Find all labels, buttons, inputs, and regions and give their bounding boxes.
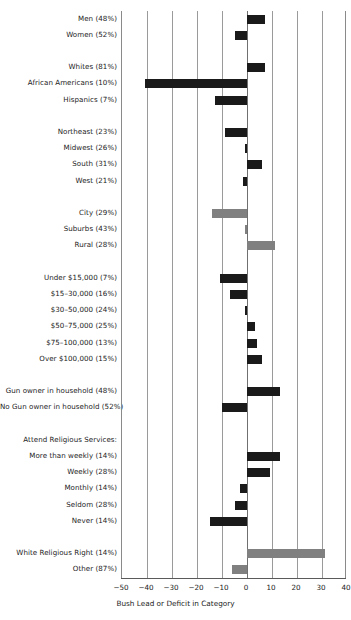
bar	[247, 160, 262, 169]
category-label: More than weekly (14%)	[0, 452, 117, 460]
plot-area	[121, 11, 346, 578]
bush-lead-deficit-chart: Men (48%)Women (52%)Whites (81%)African …	[0, 0, 351, 620]
bar	[240, 484, 248, 493]
bar	[247, 322, 255, 331]
category-label: $30–50,000 (24%)	[0, 306, 117, 314]
x-axis-title: Bush Lead or Deficit in Category	[0, 599, 351, 608]
bar	[212, 209, 247, 218]
bar	[247, 452, 280, 461]
category-label: City (29%)	[0, 209, 117, 217]
category-label: Hispanics (7%)	[0, 96, 117, 104]
bar	[247, 355, 262, 364]
bar	[245, 225, 248, 234]
bar	[247, 468, 270, 477]
gridline--40	[147, 11, 148, 578]
category-label: Women (52%)	[0, 31, 117, 39]
category-label: Weekly (28%)	[0, 468, 117, 476]
bar	[230, 290, 248, 299]
category-label: Rural (28%)	[0, 241, 117, 249]
category-label: No Gun owner in household (52%)	[0, 403, 117, 411]
bar	[243, 177, 247, 186]
group-heading-label: Attend Religious Services:	[0, 436, 117, 444]
bar	[245, 306, 248, 315]
category-label-column: Men (48%)Women (52%)Whites (81%)African …	[0, 0, 117, 620]
gridline--30	[172, 11, 173, 578]
bar	[247, 241, 275, 250]
gridline-30	[322, 11, 323, 578]
category-label: Gun owner in household (48%)	[0, 387, 117, 395]
gridline-10	[272, 11, 273, 578]
category-label: Seldom (28%)	[0, 501, 117, 509]
zero-line	[247, 11, 248, 578]
bar	[222, 403, 247, 412]
x-tick-label: 40	[331, 583, 351, 592]
category-label: Suburbs (43%)	[0, 225, 117, 233]
category-label: Under $15,000 (7%)	[0, 274, 117, 282]
bar	[247, 387, 280, 396]
gridline--20	[197, 11, 198, 578]
bar	[235, 31, 248, 40]
category-label: $50–75,000 (25%)	[0, 322, 117, 330]
category-label: South (31%)	[0, 160, 117, 168]
category-label: Northeast (23%)	[0, 128, 117, 136]
bar	[232, 565, 247, 574]
bar	[210, 517, 248, 526]
bar	[225, 128, 248, 137]
bar	[220, 274, 248, 283]
x-axis-line	[121, 578, 346, 579]
category-label: African Americans (10%)	[0, 79, 117, 87]
category-label: Men (48%)	[0, 15, 117, 23]
bar	[145, 79, 248, 88]
category-label: Monthly (14%)	[0, 484, 117, 492]
bar	[247, 63, 265, 72]
gridline-20	[297, 11, 298, 578]
category-label: Whites (81%)	[0, 63, 117, 71]
bar	[247, 15, 265, 24]
bar	[215, 96, 248, 105]
category-label: $75–100,000 (13%)	[0, 339, 117, 347]
category-label: Over $100,000 (15%)	[0, 355, 117, 363]
category-label: Other (87%)	[0, 565, 117, 573]
category-label: Never (14%)	[0, 517, 117, 525]
bar	[247, 339, 257, 348]
bar	[247, 549, 325, 558]
bar	[245, 144, 248, 153]
category-label: West (21%)	[0, 177, 117, 185]
category-label: White Religious Right (14%)	[0, 549, 117, 557]
bar	[235, 501, 248, 510]
category-label: $15–30,000 (16%)	[0, 290, 117, 298]
category-label: Midwest (26%)	[0, 144, 117, 152]
